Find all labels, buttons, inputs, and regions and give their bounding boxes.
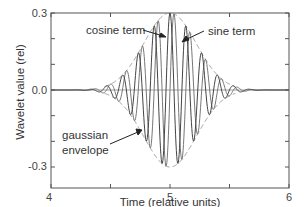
gaussian-envelope-label-line1: gaussian	[62, 129, 108, 141]
y-axis-title: Wavelet value (rel)	[14, 44, 26, 140]
x-axis-title: Time (relative units)	[120, 196, 221, 207]
sine-arrow	[182, 31, 204, 42]
xtick-4: 4	[46, 191, 52, 203]
ytick-0.0: 0.0	[32, 84, 47, 96]
cosine-arrow	[143, 30, 166, 37]
gaussian-envelope-arrow	[110, 129, 142, 144]
cosine-term-label: cosine term	[86, 24, 145, 36]
xtick-6: 6	[286, 191, 292, 203]
ytick-0.3: 0.3	[32, 7, 47, 19]
ytick-neg0.3: -0.3	[28, 160, 47, 172]
gaussian-envelope-label-line2: envelope	[62, 144, 109, 156]
sine-term-label: sine term	[208, 25, 255, 37]
wavelet-chart: 0.3 0.0 -0.3 4 5 6 Time (relative units)…	[0, 0, 307, 207]
